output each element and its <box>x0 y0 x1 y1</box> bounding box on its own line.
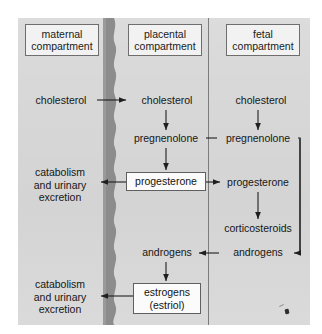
maternal-catabolism-upper-label: catabolism and urinary excretion <box>22 166 98 204</box>
placental-pregnenolone-label: pregnenolone <box>126 132 206 145</box>
maternal-cholesterol-label: cholesterol <box>26 94 96 107</box>
scan-artifact-speck <box>285 309 290 315</box>
fetal-corticosteroids-label: corticosteroids <box>213 222 303 235</box>
placental-membrane <box>103 18 119 325</box>
placental-fetal-divider <box>208 18 209 325</box>
header-placental-compartment: placental compartment <box>128 24 202 56</box>
fetal-progesterone-label: progesterone <box>216 176 300 189</box>
placental-estrogens-box: estrogens (estriol) <box>133 283 201 314</box>
header-fetal-compartment: fetal compartment <box>226 24 300 56</box>
maternal-catabolism-lower-label: catabolism and urinary excretion <box>22 278 98 316</box>
fetal-cholesterol-label: cholesterol <box>222 94 300 107</box>
pathway-diagram: maternal compartment placental compartme… <box>0 0 322 334</box>
placental-progesterone-box: progesterone <box>126 172 206 191</box>
placental-androgens-label: androgens <box>131 246 203 259</box>
placental-cholesterol-label: cholesterol <box>131 94 203 107</box>
header-maternal-compartment: maternal compartment <box>25 24 99 56</box>
fetal-androgens-label: androgens <box>222 246 294 259</box>
fetal-pregnenolone-label: pregnenolone <box>216 132 300 145</box>
